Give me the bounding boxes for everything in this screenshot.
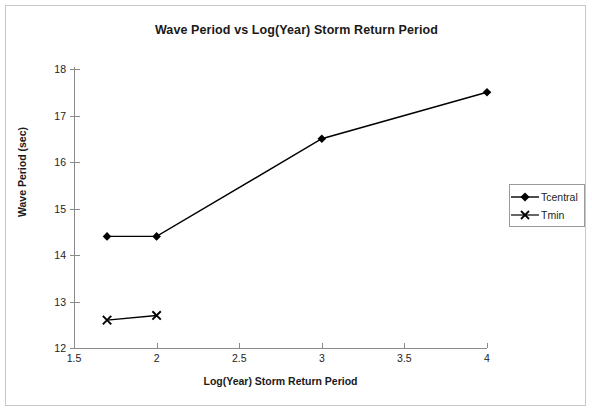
x-cross-marker-icon [510, 207, 540, 223]
series-tcentral [103, 88, 492, 241]
legend: Tcentral Tmin [509, 184, 585, 227]
legend-label-tcentral: Tcentral [540, 191, 578, 203]
data-point-marker [103, 232, 112, 241]
series-line [107, 92, 487, 236]
plot-area: 12131415161718 1.522.533.54 Log(Year) St… [6, 6, 587, 407]
data-point-marker [152, 232, 161, 241]
legend-label-tmin: Tmin [540, 209, 564, 221]
chart-frame: Wave Period vs Log(Year) Storm Return Pe… [5, 5, 586, 406]
legend-entry-tcentral[interactable]: Tcentral [510, 188, 586, 206]
series-plot [6, 6, 587, 407]
data-point-marker [318, 134, 327, 143]
series-line [107, 315, 157, 320]
legend-entry-tmin[interactable]: Tmin [510, 206, 586, 224]
series-tmin [103, 311, 161, 324]
diamond-marker-icon [510, 189, 540, 205]
data-point-marker [483, 88, 492, 97]
